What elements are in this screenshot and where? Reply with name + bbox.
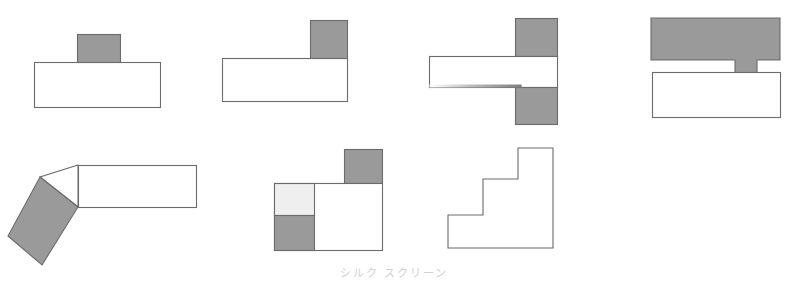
part-base-plate [223, 59, 348, 102]
part-center-boss [78, 35, 121, 63]
part-corner-boss [345, 150, 383, 184]
figure-staircase-profile [448, 148, 553, 248]
part-tabbed-bar [651, 18, 780, 73]
figure-sheet: シルク スクリーン [0, 0, 788, 281]
figure-quadrant-square-with-boss [275, 150, 383, 251]
figure-canvas [0, 0, 788, 281]
figure-tee-block-centered [35, 35, 161, 108]
part-left-lower-cell [275, 216, 315, 251]
part-base-plate [35, 63, 161, 108]
figure-cross-bar-double-boss [430, 19, 558, 125]
figure-tabbed-bar-over-plate [651, 18, 781, 118]
part-horizontal-bar [430, 57, 558, 88]
figure-caption: シルク スクリーン [0, 266, 788, 281]
part-straight-bar [79, 166, 197, 208]
part-staircase-outline [448, 148, 553, 248]
figure-ell-block-corner [223, 21, 348, 102]
part-left-upper-cell [275, 184, 315, 216]
figure-bent-bar-angled-block [8, 165, 197, 265]
part-upper-boss [516, 19, 558, 57]
part-base-plate [653, 73, 781, 118]
part-bar-edge-fade [430, 85, 522, 88]
figure-layer [8, 18, 781, 265]
part-corner-boss [311, 21, 348, 59]
part-lower-boss [516, 88, 558, 125]
